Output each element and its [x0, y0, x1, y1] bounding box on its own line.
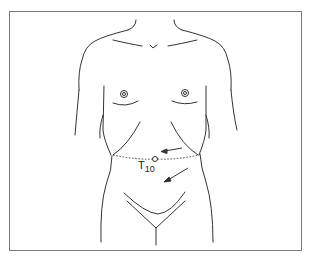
breast-curve-right: [172, 101, 197, 104]
nipple-right: [182, 90, 189, 97]
t10-label: T10: [138, 160, 155, 171]
torso-diagram: [0, 0, 310, 261]
neck-left: [128, 20, 136, 30]
hip-right: [200, 154, 213, 242]
sternal-notch: [150, 45, 157, 48]
rib-margin-left: [113, 122, 140, 155]
t10-label-main: T: [138, 159, 145, 171]
upper-arrow: [165, 148, 182, 151]
torso-left-upper: [103, 86, 111, 155]
clavicle-right: [168, 40, 197, 46]
t10-label-sub: 10: [145, 164, 155, 174]
breast-curve-left: [113, 101, 138, 105]
shoulder-left: [79, 30, 128, 90]
hip-left: [101, 156, 112, 242]
groin-lower: [127, 201, 185, 228]
shoulder-right: [182, 30, 231, 90]
nipple-left: [121, 91, 128, 98]
neck-right: [174, 20, 182, 30]
rib-margin-right: [171, 122, 198, 155]
torso-right-upper: [199, 86, 206, 155]
arm-left: [75, 90, 79, 135]
arm-right: [231, 90, 237, 130]
clavicle-left: [113, 40, 142, 46]
groin-upper: [124, 192, 185, 214]
arm-inner-left: [100, 115, 103, 138]
lower-arrow: [168, 168, 188, 180]
